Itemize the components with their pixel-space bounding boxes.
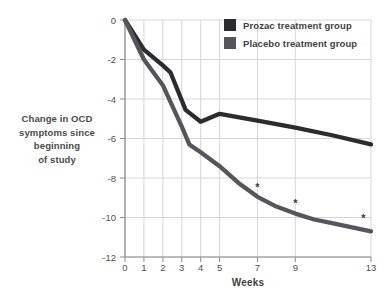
legend: Prozac treatment group Placebo treatment… xyxy=(224,16,357,52)
prozac-series-swatch-icon xyxy=(224,19,236,31)
chart: Change in OCD symptoms since beginning o… xyxy=(0,0,386,299)
legend-item-placebo: Placebo treatment group xyxy=(224,34,357,52)
y-tick-label: -12 xyxy=(102,252,116,263)
y-tick-label: -8 xyxy=(108,173,116,184)
legend-label-prozac: Prozac treatment group xyxy=(243,20,352,31)
placebo-series-swatch-icon xyxy=(224,37,236,49)
x-tick-label: 0 xyxy=(122,262,127,273)
x-tick-label: 7 xyxy=(255,262,260,273)
x-tick-label: 2 xyxy=(160,262,165,273)
significance-asterisk: * xyxy=(255,181,260,193)
legend-item-prozac: Prozac treatment group xyxy=(224,16,357,34)
y-tick-label: -10 xyxy=(102,212,116,223)
x-axis-title: Weeks xyxy=(125,277,371,288)
significance-asterisk: * xyxy=(293,197,298,209)
y-tick-label: -2 xyxy=(108,54,116,65)
y-tick-label: -6 xyxy=(108,133,116,144)
x-tick-label: 9 xyxy=(293,262,298,273)
x-tick-label: 13 xyxy=(366,262,377,273)
significance-asterisk: * xyxy=(361,212,366,224)
x-tick-label: 1 xyxy=(141,262,146,273)
x-tick-label: 5 xyxy=(217,262,222,273)
x-tick-label: 4 xyxy=(198,262,203,273)
y-tick-label: -4 xyxy=(108,94,116,105)
x-tick-label: 3 xyxy=(179,262,184,273)
y-tick-label: 0 xyxy=(111,15,116,26)
legend-label-placebo: Placebo treatment group xyxy=(243,38,357,49)
